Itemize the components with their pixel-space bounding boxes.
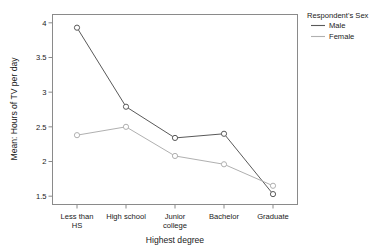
legend-label: Male [329, 21, 345, 30]
y-axis-ticks [49, 23, 53, 196]
data-point-marker [172, 135, 177, 140]
legend-entry-female[interactable]: Female [311, 32, 354, 41]
x-axis-tick-labels: Less thanHSHigh schoolJuniorcollegeBache… [61, 212, 289, 230]
data-point-marker [123, 104, 128, 109]
x-tick-label: Juniorcollege [163, 212, 187, 230]
y-tick-label: 2.5 [36, 123, 47, 132]
data-point-marker [123, 124, 128, 129]
legend-entries: MaleFemale [311, 21, 354, 41]
line-chart: 1.522.533.54 Less thanHSHigh schoolJunio… [0, 0, 388, 249]
x-tick-label: High school [106, 212, 146, 221]
y-axis-tick-labels: 1.522.533.54 [36, 19, 47, 201]
x-tick-label: Less thanHS [61, 212, 94, 230]
data-point-marker [270, 191, 275, 196]
x-axis-title: Highest degree [146, 235, 205, 245]
legend-entry-male[interactable]: Male [311, 21, 345, 30]
plot-area-frame [53, 15, 298, 205]
y-tick-label: 2 [42, 157, 46, 166]
x-tick-label: Graduate [257, 212, 289, 221]
x-tick-label: Bachelor [209, 212, 239, 221]
data-point-marker [270, 183, 275, 188]
y-tick-label: 1.5 [36, 192, 47, 201]
legend-title: Respondent's Sex [307, 11, 369, 20]
y-axis-title: Mean: Hours of TV per day [9, 57, 19, 161]
data-point-marker [74, 25, 79, 30]
y-tick-label: 3.5 [36, 53, 47, 62]
legend: Respondent's Sex MaleFemale [307, 11, 369, 41]
x-axis-ticks [77, 205, 273, 209]
chart-canvas: 1.522.533.54 Less thanHSHigh schoolJunio… [0, 0, 388, 249]
y-tick-label: 3 [42, 88, 46, 97]
data-point-marker [221, 162, 226, 167]
legend-label: Female [329, 32, 354, 41]
y-tick-label: 4 [42, 19, 46, 28]
data-point-marker [221, 131, 226, 136]
data-point-marker [74, 133, 79, 138]
data-point-marker [172, 153, 177, 158]
